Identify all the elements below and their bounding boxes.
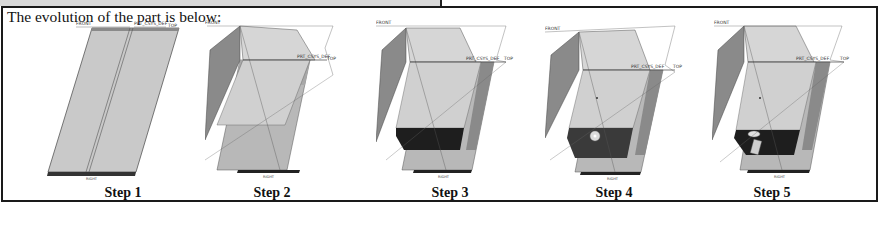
top-plane-label: TOP bbox=[839, 56, 849, 61]
top-plane-label: TOP bbox=[503, 56, 513, 61]
step-2-model-image: FRONT PRT_CSYS_DEF TOP RIGHT bbox=[205, 20, 340, 182]
step-2-figure: FRONT PRT_CSYS_DEF TOP RIGHT bbox=[205, 20, 340, 182]
right-plane-label: RIGHT bbox=[86, 177, 98, 181]
front-plane-label: FRONT bbox=[205, 20, 221, 25]
right-plane-label: RIGHT bbox=[774, 175, 786, 179]
step-3-figure: FRONT PRT_CSYS_DEF TOP RIGHT bbox=[376, 20, 516, 182]
step-5-model-image: FRONT PRT_CSYS_DEF TOP RIGHT bbox=[712, 20, 857, 182]
step-5-caption: Step 5 bbox=[754, 185, 791, 201]
step-1-figure: FRONT PRT_CSYS_DEF TOP RIGHT bbox=[44, 20, 194, 182]
step-5-figure: FRONT PRT_CSYS_DEF TOP RIGHT bbox=[712, 20, 857, 182]
right-plane-label: RIGHT bbox=[607, 177, 619, 181]
front-plane-label: FRONT bbox=[714, 20, 730, 25]
right-plane-label: RIGHT bbox=[438, 175, 450, 179]
step-1-model-image: FRONT PRT_CSYS_DEF TOP RIGHT bbox=[44, 20, 194, 182]
step-4-caption: Step 4 bbox=[596, 185, 633, 201]
top-plane-label: TOP bbox=[326, 56, 336, 61]
step-2-caption: Step 2 bbox=[254, 185, 291, 201]
step-4-figure: FRONT PRT_CSYS_DEF TOP RIGHT bbox=[545, 20, 685, 182]
top-plane-label: TOP bbox=[672, 64, 682, 69]
front-plane-label: FRONT bbox=[376, 20, 392, 25]
step-1-caption: Step 1 bbox=[105, 185, 142, 201]
step-3-caption: Step 3 bbox=[432, 185, 469, 201]
csys-label: PRT_CSYS_DEF bbox=[134, 21, 168, 27]
right-plane-label: RIGHT bbox=[263, 175, 275, 179]
front-plane-label: FRONT bbox=[545, 26, 561, 31]
step-4-model-image: FRONT PRT_CSYS_DEF TOP RIGHT bbox=[545, 20, 685, 182]
top-plane-label: TOP bbox=[167, 23, 177, 28]
step-3-model-image: FRONT PRT_CSYS_DEF TOP RIGHT bbox=[376, 20, 516, 182]
front-plane-label: FRONT bbox=[76, 21, 92, 26]
